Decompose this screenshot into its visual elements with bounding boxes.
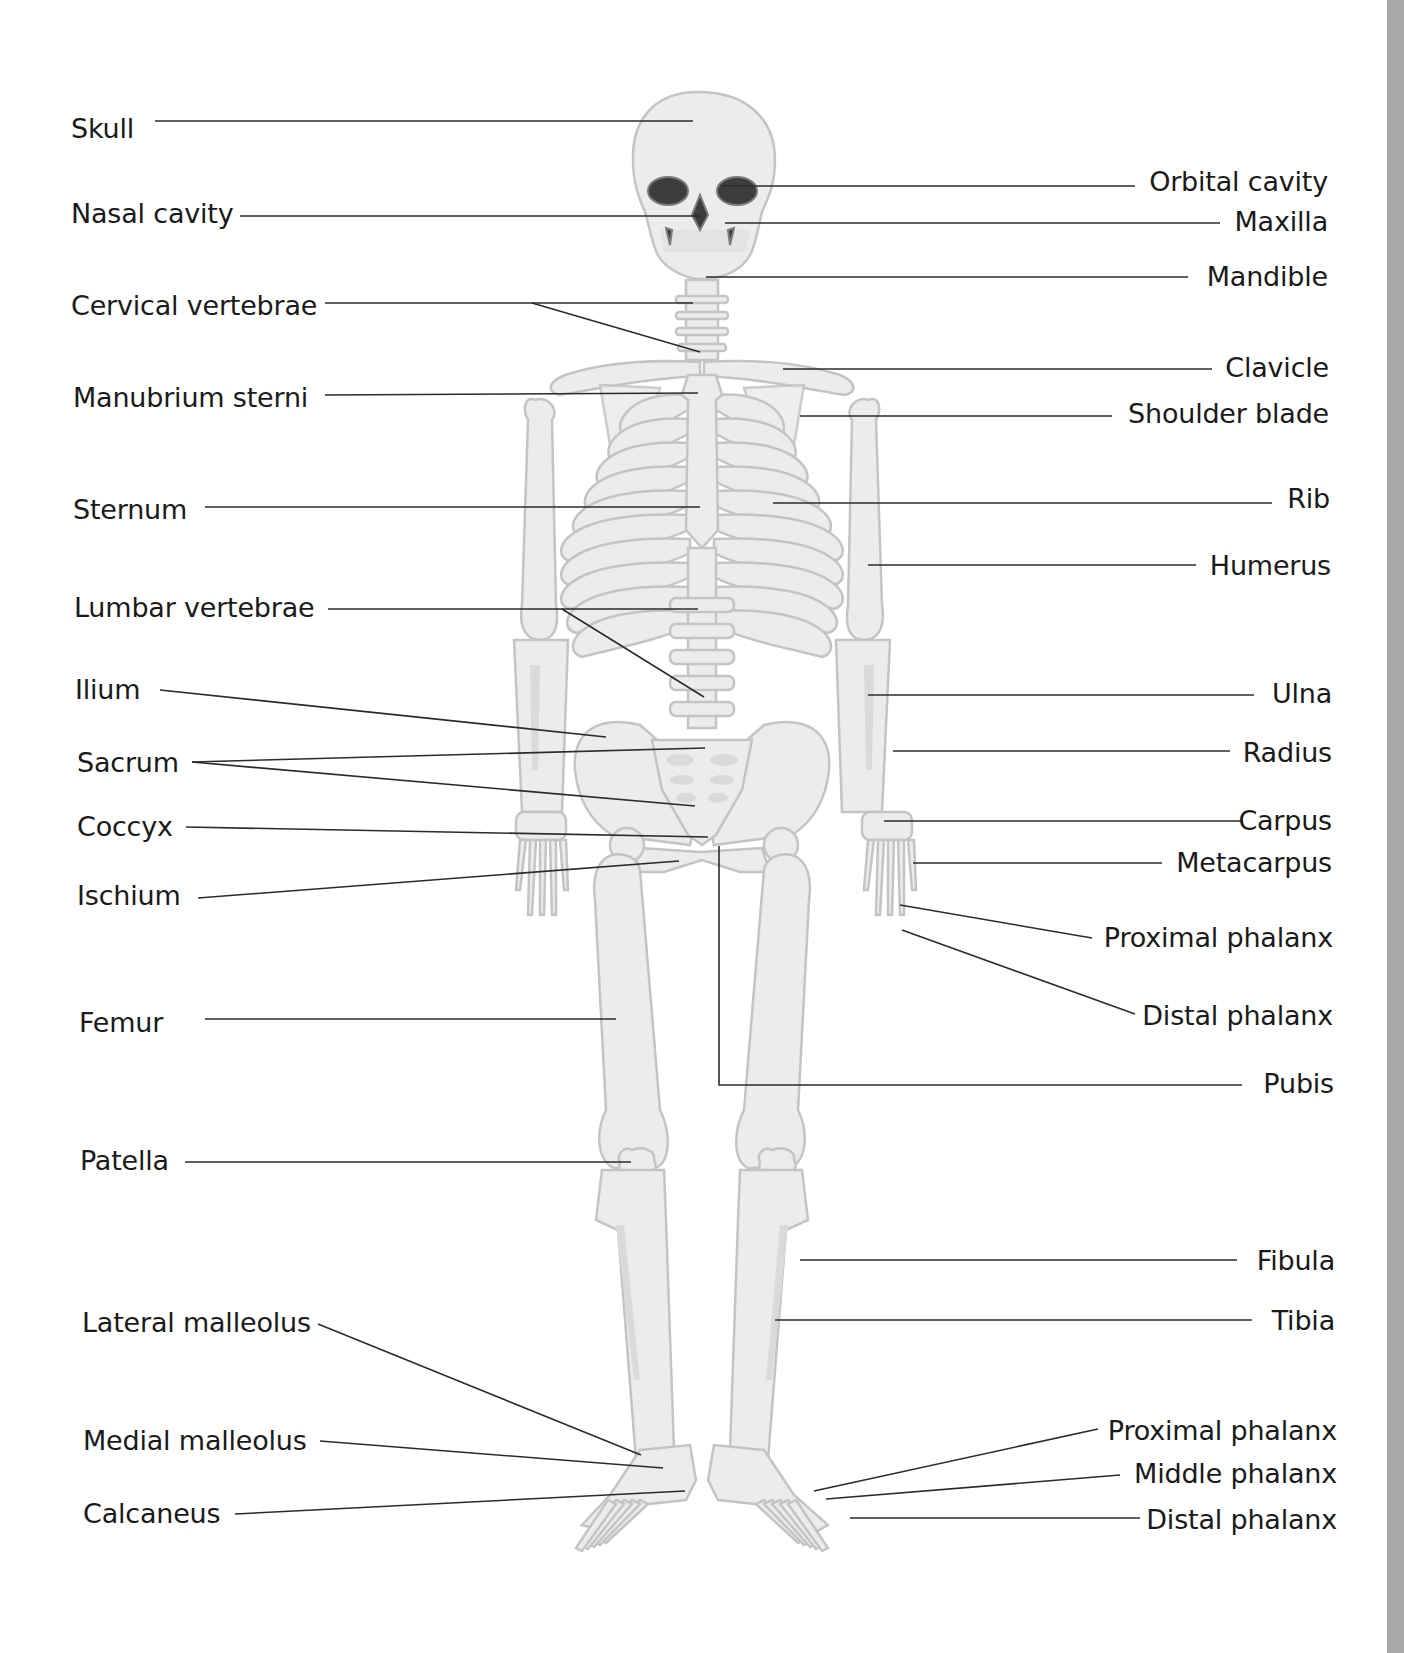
label-ilium: Ilium [75, 676, 140, 703]
page-edge-bar [1387, 0, 1404, 1653]
skeleton-diagram: SkullNasal cavityCervical vertebraeManub… [0, 0, 1404, 1653]
right-orbit [717, 177, 757, 205]
finger [550, 840, 556, 915]
label-shoulder-blade: Shoulder blade [1128, 400, 1329, 427]
lumbar-vertebra [670, 598, 734, 612]
label-radius: Radius [1243, 739, 1332, 766]
label-ischium: Ischium [77, 882, 181, 909]
label-distal-phalanx-foot: Distal phalanx [1146, 1506, 1337, 1533]
sternum-bone [682, 375, 722, 548]
label-medial-malleolus: Medial malleolus [83, 1427, 307, 1454]
label-maxilla: Maxilla [1235, 208, 1328, 235]
leader-line-lateral-malleolus [318, 1324, 641, 1455]
label-calcaneus: Calcaneus [83, 1500, 220, 1527]
label-coccyx: Coccyx [77, 813, 173, 840]
label-distal-phalanx-hand: Distal phalanx [1142, 1002, 1333, 1029]
label-mandible: Mandible [1207, 263, 1328, 290]
leader-line-distal-phalanx-hand [902, 930, 1135, 1014]
lumbar-vertebra [670, 676, 734, 690]
label-proximal-phalanx-foot: Proximal phalanx [1108, 1417, 1337, 1444]
label-fibula: Fibula [1257, 1247, 1335, 1274]
label-lateral-malleolus: Lateral malleolus [82, 1309, 311, 1336]
finger [908, 840, 916, 890]
finger [876, 840, 884, 915]
feet [576, 1445, 828, 1551]
leader-line-medial-malleolus [320, 1441, 663, 1468]
finger [560, 840, 568, 890]
lumbar-vertebra [670, 650, 734, 664]
label-middle-phalanx-foot: Middle phalanx [1134, 1460, 1337, 1487]
skeleton-illustration [0, 0, 1404, 1653]
leader-line-proximal-phalanx-foot [814, 1429, 1098, 1491]
finger [864, 840, 874, 890]
label-humerus: Humerus [1210, 552, 1331, 579]
finger [898, 840, 904, 915]
label-proximal-phalanx-hand: Proximal phalanx [1104, 924, 1333, 951]
finger [888, 840, 894, 915]
left-orbit [648, 177, 688, 205]
finger [540, 840, 546, 915]
pelvis [575, 722, 829, 872]
label-rib: Rib [1287, 485, 1330, 512]
label-nasal-cavity: Nasal cavity [71, 200, 233, 227]
finger [528, 840, 536, 915]
label-metacarpus: Metacarpus [1176, 849, 1332, 876]
label-femur: Femur [79, 1009, 163, 1036]
label-lumbar-vertebrae: Lumbar vertebrae [74, 594, 314, 621]
leader-line-cervical-vertebrae-branch [532, 303, 700, 352]
label-cervical-vertebrae: Cervical vertebrae [71, 292, 317, 319]
leader-line-proximal-phalanx-hand [900, 905, 1092, 938]
label-skull: Skull [71, 115, 134, 142]
label-ulna: Ulna [1272, 680, 1332, 707]
label-clavicle: Clavicle [1225, 354, 1329, 381]
label-pubis: Pubis [1263, 1070, 1334, 1097]
label-sternum: Sternum [73, 496, 187, 523]
label-patella: Patella [80, 1147, 169, 1174]
label-carpus: Carpus [1238, 807, 1332, 834]
label-manubrium-sterni: Manubrium sterni [73, 384, 308, 411]
label-tibia: Tibia [1272, 1307, 1335, 1334]
legs [594, 854, 810, 1460]
label-sacrum: Sacrum [77, 749, 179, 776]
lumbar-vertebra [670, 624, 734, 638]
finger [516, 840, 526, 890]
label-orbital-cavity: Orbital cavity [1149, 168, 1328, 195]
lumbar-vertebra [670, 702, 734, 716]
